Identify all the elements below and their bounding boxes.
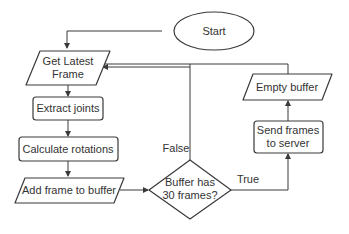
get-frame-node: Get Latest Frame: [26, 51, 110, 85]
decision-node: Buffer has 30 frames?: [149, 160, 231, 219]
get-frame-label-1: Get Latest: [43, 55, 94, 67]
false-label: False: [163, 142, 190, 154]
empty-node: Empty buffer: [243, 74, 332, 100]
empty-label: Empty buffer: [256, 81, 318, 93]
send-label-1: Send frames: [257, 124, 320, 136]
send-label-2: to server: [267, 137, 310, 149]
edge-empty-loop-back: [103, 64, 288, 74]
decision-label-1: Buffer has: [165, 176, 215, 188]
calc-label: Calculate rotations: [22, 143, 114, 155]
start-node: Start: [174, 12, 254, 50]
extract-node: Extract joints: [33, 97, 103, 120]
extract-label: Extract joints: [37, 102, 100, 114]
add-label: Add frame to buffer: [22, 184, 116, 196]
get-frame-label-2: Frame: [52, 68, 84, 80]
calc-node: Calculate rotations: [19, 137, 118, 161]
send-node: Send frames to server: [254, 121, 323, 153]
flowchart: Start Get Latest Frame Extract joints Ca…: [0, 0, 349, 234]
add-node: Add frame to buffer: [15, 178, 124, 203]
edge-start-to-get-frame: [67, 31, 162, 48]
true-label: True: [237, 173, 259, 185]
start-label: Start: [202, 25, 225, 37]
decision-label-2: 30 frames?: [162, 189, 217, 201]
